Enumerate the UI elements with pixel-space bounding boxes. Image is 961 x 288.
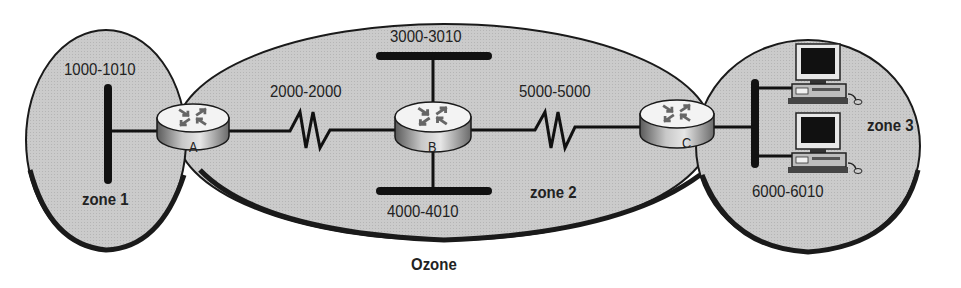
ozone-label: Ozone — [411, 255, 457, 275]
network-range-2000: 2000-2000 — [270, 82, 342, 102]
router-b-label: B — [428, 138, 437, 155]
network-range-3000: 3000-3010 — [390, 27, 462, 47]
network-range-6000: 6000-6010 — [752, 182, 824, 202]
router-a-label: A — [189, 138, 198, 155]
network-diagram — [0, 0, 961, 288]
zone3-label: zone 3 — [867, 116, 914, 136]
router-c-label: C — [682, 134, 691, 151]
network-range-5000: 5000-5000 — [519, 82, 591, 102]
router-c-icon — [640, 100, 714, 148]
zone2-label: zone 2 — [530, 183, 577, 203]
network-range-1000: 1000-1010 — [64, 60, 136, 80]
zone1-label: zone 1 — [82, 190, 129, 210]
network-range-4000: 4000-4010 — [387, 202, 459, 222]
